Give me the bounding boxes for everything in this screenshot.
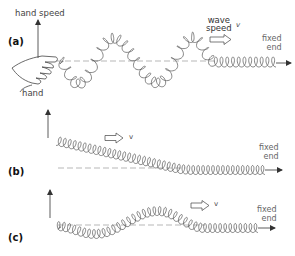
end-label-a: end — [262, 43, 282, 52]
hand-label: hand — [22, 88, 43, 98]
speed-label: speed — [206, 24, 232, 32]
speed-symbol-b: v — [129, 133, 133, 141]
spring-coil-a — [59, 32, 276, 88]
fixed-label-b: fixed — [259, 143, 279, 152]
wave-speed-arrow-a-icon — [210, 35, 231, 45]
wave-speed-label: wave speed — [206, 16, 232, 32]
end-label-c: end — [257, 214, 277, 223]
speed-symbol-c: v — [214, 200, 218, 208]
wave-speed-arrow-b-icon — [105, 133, 123, 143]
fixed-label-c: fixed — [257, 205, 277, 214]
spring-coil-b — [56, 137, 265, 174]
hand-icon — [12, 56, 57, 92]
fixed-end-label-a: fixed end — [262, 34, 282, 52]
panel-label-c: (c) — [8, 232, 23, 243]
spring-coil-c — [57, 207, 258, 239]
end-label-b: end — [259, 152, 279, 161]
fixed-end-label-b: fixed end — [259, 143, 279, 161]
hand-speed-label: hand speed — [15, 8, 65, 18]
fixed-end-label-c: fixed end — [257, 205, 277, 223]
panel-a — [12, 20, 291, 92]
spring-wave-diagram — [0, 0, 295, 256]
panel-c — [50, 190, 275, 238]
panel-b — [48, 110, 282, 175]
panel-label-a: (a) — [8, 36, 24, 47]
fixed-label-a: fixed — [262, 34, 282, 43]
speed-symbol-a: v — [236, 21, 240, 29]
wave-speed-arrow-c-icon — [191, 201, 209, 211]
panel-label-b: (b) — [8, 166, 24, 177]
